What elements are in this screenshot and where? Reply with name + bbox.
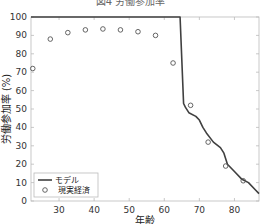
- y-tick-label: 90: [16, 30, 28, 40]
- y-tick-label: 10: [16, 178, 28, 188]
- chart: 0102030405060708090100304050607080年齢労働参加…: [0, 0, 261, 224]
- x-tick-label: 60: [159, 205, 171, 215]
- y-axis-label: 労働参加率 (%): [0, 74, 12, 145]
- y-tick-label: 60: [16, 86, 28, 96]
- y-tick-label: 70: [16, 67, 28, 77]
- y-tick-label: 30: [16, 141, 28, 151]
- x-tick-label: 80: [229, 205, 241, 215]
- model-line: [31, 17, 259, 194]
- data-point-marker: [83, 28, 88, 33]
- data-point-marker: [66, 30, 71, 35]
- y-tick-label: 80: [16, 49, 28, 59]
- data-point-marker: [48, 37, 53, 42]
- x-tick-label: 40: [88, 205, 100, 215]
- data-point-marker: [118, 28, 123, 33]
- legend-label-model: モデル: [55, 175, 79, 185]
- x-tick-label: 30: [53, 205, 65, 215]
- y-tick-label: 40: [16, 122, 28, 132]
- plot-area: 0102030405060708090100304050607080年齢労働参加…: [0, 12, 259, 224]
- y-tick-label: 100: [10, 12, 27, 22]
- x-axis-label: 年齢: [135, 214, 155, 224]
- x-tick-label: 50: [123, 205, 135, 215]
- data-point-marker: [153, 33, 158, 38]
- data-point-marker: [171, 61, 176, 66]
- y-tick-label: 0: [21, 196, 27, 206]
- x-tick-label: 70: [194, 205, 206, 215]
- data-point-marker: [136, 29, 141, 34]
- data-point-marker: [206, 140, 211, 145]
- data-point-marker: [101, 27, 106, 32]
- data-point-marker: [223, 164, 228, 169]
- y-tick-label: 20: [16, 159, 28, 169]
- data-point-marker: [188, 103, 193, 108]
- legend-label-actual: 現実経済: [58, 185, 90, 195]
- y-tick-label: 50: [16, 104, 28, 114]
